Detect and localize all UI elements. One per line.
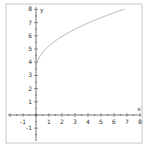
y-tick-label: 3 [28, 71, 32, 78]
y-tick-label: 4 [28, 58, 32, 65]
y-tick-label: 5 [28, 45, 32, 52]
curve-line [36, 9, 124, 69]
y-tick-label: 7 [28, 19, 32, 26]
x-axis-label: x [137, 105, 141, 112]
y-tick-label: 1 [28, 98, 32, 105]
x-tick-label: 6 [112, 118, 116, 125]
y-axis-label: y [40, 6, 44, 14]
chart: -112345678-112345678xy [0, 0, 143, 150]
x-tick-label: 7 [125, 118, 129, 125]
x-tick-label: 8 [138, 118, 142, 125]
y-tick-label: 2 [28, 85, 32, 92]
y-tick-label: 6 [28, 32, 32, 39]
y-tick-label: -1 [26, 124, 32, 131]
x-tick-label: 3 [73, 118, 77, 125]
plot-area: -112345678-112345678xy [0, 0, 143, 150]
x-tick-label: 1 [47, 118, 51, 125]
x-tick-label: 5 [99, 118, 103, 125]
x-tick-label: 2 [60, 118, 64, 125]
x-tick-label: 4 [86, 118, 90, 125]
y-tick-label: 8 [28, 5, 32, 12]
